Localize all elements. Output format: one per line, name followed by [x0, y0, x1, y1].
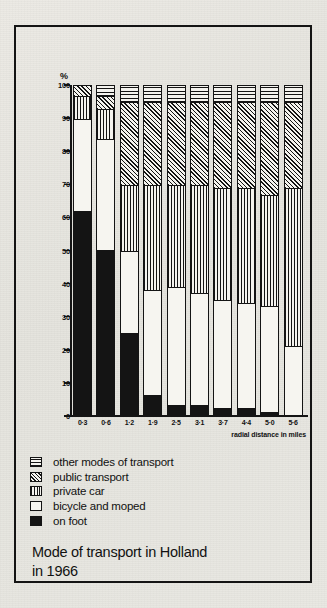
stacked-bar[interactable]: [167, 85, 186, 416]
plot-area: % 0102030405060708090100 0·30·61·21·92·5…: [16, 27, 314, 447]
stacked-bar[interactable]: [73, 85, 92, 416]
legend-label: on foot: [53, 515, 87, 527]
bar-segment-car: [121, 185, 138, 251]
bar-segment-public: [168, 102, 185, 184]
bar-segment-car: [285, 188, 302, 346]
bar-segment-foot: [168, 405, 185, 415]
bar-segment-foot: [214, 408, 231, 415]
bar-segment-public: [285, 102, 302, 188]
bar-segment-other: [121, 86, 138, 102]
y-axis-tick-label: 100: [48, 81, 70, 90]
y-axis-unit-label: %: [60, 71, 68, 81]
legend-swatch-bicycle-icon: [30, 501, 42, 511]
legend-swatch-other-icon: [30, 457, 42, 467]
bar-segment-other: [144, 86, 161, 102]
bar-segment-bicycle: [238, 303, 255, 408]
legend-label: private car: [53, 485, 105, 497]
bar-segment-foot: [191, 405, 208, 415]
bar-segment-bicycle: [168, 287, 185, 405]
legend-item[interactable]: on foot: [30, 513, 300, 528]
legend-label: other modes of transport: [53, 456, 174, 468]
bar-segment-car: [74, 96, 91, 119]
stacked-bar[interactable]: [260, 85, 279, 416]
bar-segment-foot: [74, 211, 91, 415]
y-axis-tick-label-wrap: 40: [36, 280, 70, 281]
stacked-bar[interactable]: [284, 85, 303, 416]
bar-segment-public: [74, 86, 91, 96]
legend-item[interactable]: public transport: [30, 470, 300, 485]
y-axis-tick-label-wrap: 20: [36, 346, 70, 347]
legend-swatch-car-icon: [30, 486, 42, 496]
bar-segment-bicycle: [121, 251, 138, 333]
bar-segment-foot: [121, 333, 138, 415]
y-axis-tick-label: 10: [48, 379, 70, 388]
y-axis-tick-label: 60: [48, 213, 70, 222]
stacked-bar[interactable]: [190, 85, 209, 416]
legend-item[interactable]: other modes of transport: [30, 455, 300, 470]
bar-segment-car: [144, 185, 161, 290]
y-axis-tick-label-wrap: 100: [36, 81, 70, 82]
y-axis-tick-label-wrap: 30: [36, 313, 70, 314]
bar-segment-foot: [238, 408, 255, 415]
bar-segment-other: [285, 86, 302, 102]
bar-segment-bicycle: [191, 293, 208, 405]
bar-segment-public: [238, 102, 255, 188]
bar-segment-car: [238, 188, 255, 303]
bar-segment-bicycle: [214, 300, 231, 409]
y-axis-tick-label-wrap: 90: [36, 114, 70, 115]
bar-segment-bicycle: [144, 290, 161, 395]
bar-segment-foot: [97, 250, 114, 415]
y-axis-tick-label-wrap: 70: [36, 180, 70, 181]
y-axis-tick-label-wrap: 80: [36, 147, 70, 148]
bar-segment-public: [144, 102, 161, 184]
bar-segment-public: [191, 102, 208, 184]
bar-segment-bicycle: [74, 119, 91, 211]
legend-item[interactable]: bicycle and moped: [30, 499, 300, 514]
y-axis-line: [70, 85, 72, 416]
stacked-bar[interactable]: [143, 85, 162, 416]
bar-segment-public: [214, 102, 231, 188]
stacked-bar[interactable]: [96, 85, 115, 416]
y-axis-tick-label: 30: [48, 313, 70, 322]
bar-segment-other: [191, 86, 208, 102]
figure-caption: Mode of transport in Holland in 1966: [32, 543, 297, 581]
y-axis-tick-label: 40: [48, 280, 70, 289]
legend-label: public transport: [53, 471, 128, 483]
y-axis-tick-label-wrap: 0: [36, 412, 70, 413]
bar-segment-other: [168, 86, 185, 102]
bar-segment-car: [191, 185, 208, 294]
bars-layer: [73, 85, 308, 416]
bar-segment-bicycle: [285, 346, 302, 415]
bar-segment-bicycle: [97, 139, 114, 251]
legend-swatch-public-icon: [30, 472, 42, 482]
bar-segment-other: [261, 86, 278, 102]
legend-label: bicycle and moped: [53, 500, 146, 512]
bar-segment-foot: [261, 412, 278, 415]
legend: other modes of transportpublic transport…: [30, 455, 300, 528]
bar-segment-public: [97, 96, 114, 109]
stacked-bar[interactable]: [213, 85, 232, 416]
x-axis-title: radial distance in miles: [231, 431, 306, 438]
y-axis-tick-label: 70: [48, 180, 70, 189]
y-axis-tick-label-wrap: 60: [36, 213, 70, 214]
stacked-bar[interactable]: [120, 85, 139, 416]
bar-segment-foot: [144, 395, 161, 415]
y-axis-tick-label-wrap: 50: [36, 247, 70, 248]
bar-segment-car: [97, 109, 114, 139]
y-axis-tick-label: 80: [48, 147, 70, 156]
bar-segment-car: [168, 185, 185, 287]
y-axis-tick-label: 90: [48, 114, 70, 123]
bar-segment-public: [261, 102, 278, 194]
legend-swatch-foot-icon: [30, 516, 42, 526]
stacked-bar[interactable]: [237, 85, 256, 416]
x-axis-tick-label: 5·6: [276, 419, 310, 426]
bar-segment-car: [261, 195, 278, 307]
bar-segment-car: [214, 188, 231, 300]
caption-line-2: in 1966: [32, 562, 297, 581]
bar-segment-bicycle: [261, 306, 278, 411]
bar-segment-other: [238, 86, 255, 102]
bar-segment-other: [214, 86, 231, 102]
bar-segment-other: [97, 86, 114, 96]
caption-line-1: Mode of transport in Holland: [32, 543, 297, 562]
legend-item[interactable]: private car: [30, 484, 300, 499]
